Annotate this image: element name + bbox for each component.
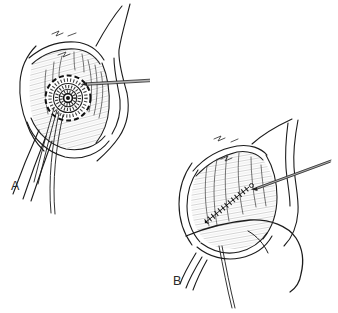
instrument-shaft-line: [219, 246, 232, 308]
skin-right-inner-edge: [112, 58, 120, 134]
panel-a-drawing: A: [11, 4, 150, 214]
surgical-illustration: A: [0, 0, 338, 313]
skin-left-contour: [179, 163, 192, 245]
leg-contour-line: [193, 260, 207, 290]
limb-upper-left-contour: [96, 6, 122, 46]
tissue-flick-mark: [52, 31, 63, 36]
center-dot: [66, 96, 70, 100]
leg-contour-line: [180, 253, 196, 284]
tissue-flick-mark: [68, 33, 76, 36]
figure-canvas: A: [0, 0, 338, 313]
instrument-shaft-line: [222, 246, 235, 308]
tissue-flick-mark: [214, 136, 225, 141]
tissue-flick-mark: [231, 139, 238, 142]
leg-contour-line: [31, 141, 52, 201]
skin-right-inner-edge: [286, 123, 290, 206]
panel-a-label: A: [11, 179, 20, 193]
leg-contour-line: [186, 257, 202, 288]
suture-knot: [205, 221, 208, 224]
panel-b-drawing: B: [173, 119, 331, 308]
panel-b-label: B: [173, 274, 181, 288]
